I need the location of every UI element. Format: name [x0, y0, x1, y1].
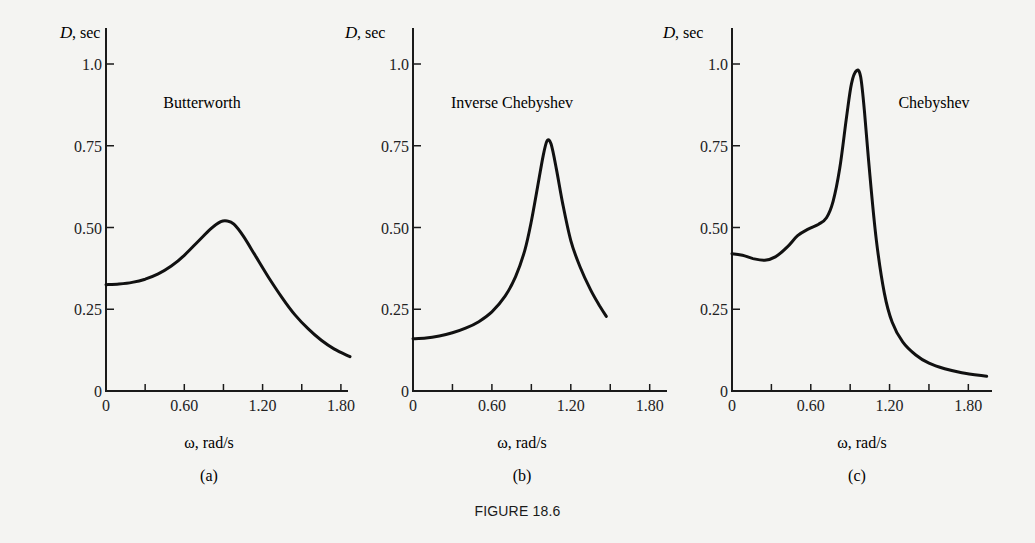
- x-tick-label: 1.80: [636, 397, 664, 414]
- y-tick-label: 0.25: [74, 301, 102, 318]
- x-tick-label: 0.60: [797, 397, 825, 414]
- y-tick-label: 0.50: [74, 220, 102, 237]
- panel-label: (a): [200, 467, 218, 485]
- y-tick-label: 0: [401, 383, 409, 400]
- y-tick-label: 0.75: [74, 138, 102, 155]
- y-tick-label: 0: [94, 383, 102, 400]
- y-tick-label: 0.75: [381, 138, 409, 155]
- y-axis-label-unit: , sec: [72, 24, 100, 41]
- x-axis-label: ω, rad/s: [837, 434, 887, 451]
- x-tick-label: 1.20: [876, 397, 904, 414]
- y-tick-label: 1.0: [708, 56, 728, 73]
- x-axis-label: ω, rad/s: [184, 434, 234, 451]
- y-axis-label-italic: D: [59, 23, 73, 42]
- chart-title: Butterworth: [163, 94, 240, 111]
- panel-label: (b): [513, 467, 532, 485]
- x-tick-label: 0: [409, 397, 417, 414]
- y-axis-label-unit: , sec: [357, 24, 385, 41]
- figure-caption: FIGURE 18.6: [0, 503, 1035, 519]
- x-tick-label: 1.80: [954, 397, 982, 414]
- panel-a: D , sec Butterworth ω, rad/s (a) 00.250.…: [59, 23, 355, 485]
- data-curve: [413, 140, 606, 339]
- x-tick-label: 1.20: [249, 397, 277, 414]
- x-tick-label: 0.60: [170, 397, 198, 414]
- y-tick-label: 0.50: [381, 220, 409, 237]
- y-tick-label: 0: [720, 383, 728, 400]
- y-axis-label-unit: , sec: [675, 24, 703, 41]
- x-tick-label: 1.20: [557, 397, 585, 414]
- chart-title: Inverse Chebyshev: [451, 94, 573, 112]
- y-tick-label: 0.75: [700, 138, 728, 155]
- x-axis-label: ω, rad/s: [497, 434, 547, 451]
- y-axis-label-italic: D: [344, 23, 358, 42]
- panel-label: (c): [848, 467, 866, 485]
- x-tick-label: 0: [728, 397, 736, 414]
- y-tick-label: 0.25: [700, 301, 728, 318]
- panel-c: D , sec Chebyshev ω, rad/s (c) 00.250.50…: [662, 23, 992, 485]
- y-tick-label: 1.0: [389, 56, 409, 73]
- data-curve: [732, 70, 987, 376]
- x-tick-label: 0.60: [478, 397, 506, 414]
- figure-canvas: D , sec Butterworth ω, rad/s (a) 00.250.…: [0, 0, 1035, 543]
- y-tick-label: 0.25: [381, 301, 409, 318]
- y-tick-label: 1.0: [82, 56, 102, 73]
- panel-b: D , sec Inverse Chebyshev ω, rad/s (b) 0…: [344, 23, 667, 485]
- chart-title: Chebyshev: [898, 94, 969, 112]
- data-curve: [106, 221, 350, 357]
- y-axis-label-italic: D: [662, 23, 676, 42]
- y-tick-label: 0.50: [700, 220, 728, 237]
- x-tick-label: 0: [102, 397, 110, 414]
- x-tick-label: 1.80: [327, 397, 355, 414]
